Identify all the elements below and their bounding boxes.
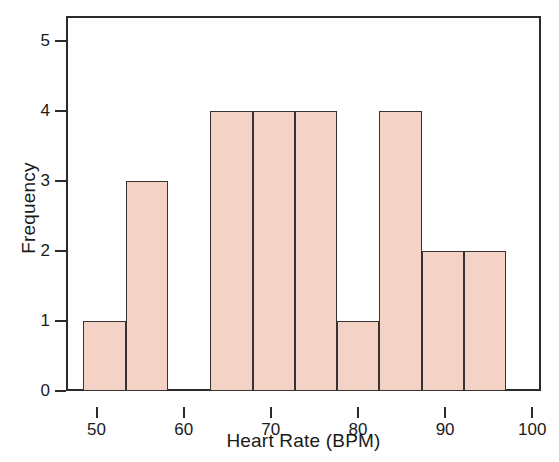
y-axis-tick <box>55 320 66 322</box>
x-axis-tick <box>531 407 533 418</box>
histogram-bar <box>422 251 464 391</box>
frame-left-border <box>66 16 68 391</box>
y-axis-tick <box>55 180 66 182</box>
y-axis-tick <box>55 250 66 252</box>
x-axis-tick <box>357 407 359 418</box>
y-axis-tick-label: 4 <box>26 102 50 119</box>
frame-right-border <box>539 16 541 391</box>
histogram-bar <box>295 111 337 391</box>
histogram-bar <box>379 111 421 391</box>
x-axis-tick-label: 80 <box>335 421 381 439</box>
frame-top-border <box>66 16 541 18</box>
y-axis-tick <box>55 110 66 112</box>
y-axis-tick-label: 2 <box>26 242 50 259</box>
histogram-figure: Frequency Heart Rate (BPM) 012345 506070… <box>0 0 559 462</box>
x-axis-tick-label: 60 <box>161 421 207 439</box>
y-axis-tick <box>55 390 66 392</box>
x-axis-tick-label: 50 <box>74 421 120 439</box>
y-axis-tick-label: 5 <box>26 32 50 49</box>
x-axis-tick-label: 90 <box>422 421 468 439</box>
x-axis-tick <box>444 407 446 418</box>
x-axis-tick <box>270 407 272 418</box>
histogram-bar <box>253 111 295 391</box>
histogram-bar <box>337 321 379 391</box>
x-axis-tick <box>183 407 185 418</box>
x-axis-tick <box>96 407 98 418</box>
x-axis-tick-label: 100 <box>509 421 555 439</box>
y-axis-tick <box>55 40 66 42</box>
x-axis-tick-label: 70 <box>248 421 294 439</box>
histogram-bar <box>83 321 125 391</box>
y-axis-tick-label: 3 <box>26 172 50 189</box>
histogram-bar <box>126 181 168 391</box>
y-axis-tick-label: 1 <box>26 312 50 329</box>
histogram-bar <box>210 111 252 391</box>
y-axis-title: Frequency <box>18 118 40 298</box>
histogram-bar <box>464 251 506 391</box>
y-axis-tick-label: 0 <box>26 382 50 399</box>
plot-area: 012345 5060708090100 <box>66 16 541 391</box>
x-axis-title: Heart Rate (BPM) <box>66 430 541 452</box>
